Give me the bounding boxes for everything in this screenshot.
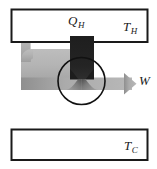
- heat-input-label-subscript: H: [78, 20, 85, 30]
- work-output-label: W: [139, 74, 150, 87]
- work-output-label-main: W: [139, 73, 150, 88]
- hot-reservoir-label-main: T: [123, 19, 130, 34]
- heat-input-label: QH: [68, 14, 84, 27]
- hot-reservoir-label: TH: [123, 20, 137, 33]
- cold-reservoir-label-subscript: C: [132, 145, 138, 155]
- heat-engine-diagram: TH TC QH W: [0, 0, 157, 169]
- cold-reservoir-label: TC: [124, 139, 137, 152]
- cold-reservoir-label-main: T: [124, 138, 131, 153]
- hot-reservoir-label-subscript: H: [131, 26, 138, 36]
- heat-input-label-main: Q: [68, 13, 77, 28]
